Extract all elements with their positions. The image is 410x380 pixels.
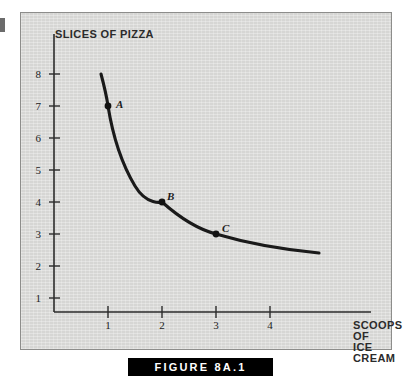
data-point-a [105, 103, 112, 110]
indifference-curve [101, 74, 319, 253]
x-tick-label-1: 1 [101, 319, 115, 331]
y-tick-label-4: 4 [27, 196, 41, 208]
data-point-b [159, 199, 166, 206]
x-tick-label-4: 4 [263, 319, 277, 331]
y-tick-label-1: 1 [27, 292, 41, 304]
y-tick-label-6: 6 [27, 132, 41, 144]
y-axis-title: SLICES OF PIZZA [55, 29, 154, 40]
figure-panel: SLICES OF PIZZA SCOOPS OF ICE CREAM 1 2 … [20, 12, 392, 350]
scan-edge-artifact [0, 18, 5, 32]
y-tick-label-5: 5 [27, 164, 41, 176]
y-tick-label-7: 7 [27, 100, 41, 112]
y-tick-label-8: 8 [27, 68, 41, 80]
point-label-a: A [116, 98, 123, 110]
point-label-c: C [222, 222, 229, 234]
y-tick-label-2: 2 [27, 260, 41, 272]
x-tick-label-3: 3 [209, 319, 223, 331]
point-label-b: B [167, 190, 174, 202]
x-tick-label-2: 2 [155, 319, 169, 331]
figure-caption: FIGURE 8A.1 [128, 358, 273, 376]
indifference-curve-plot [21, 13, 391, 349]
x-axis-title: SCOOPS OF ICE CREAM [353, 320, 402, 364]
data-point-c [213, 231, 220, 238]
y-tick-label-3: 3 [27, 228, 41, 240]
